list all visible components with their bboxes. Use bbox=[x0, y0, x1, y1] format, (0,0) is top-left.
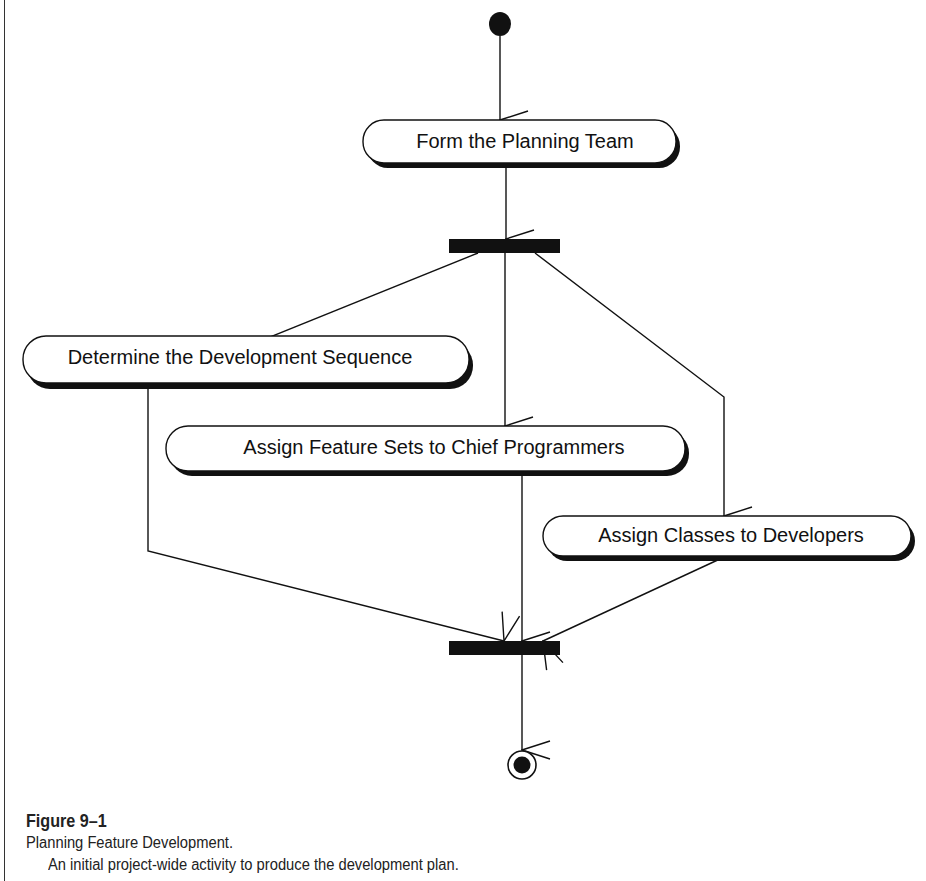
activity-label: Determine the Development Sequence bbox=[68, 346, 413, 368]
activity-determine-development-sequence: Determine the Development Sequence bbox=[23, 336, 473, 389]
activity-assign-feature-sets: Assign Feature Sets to Chief Programmers bbox=[166, 426, 689, 476]
figure-description: An initial project-wide activity to prod… bbox=[48, 854, 459, 876]
activity-label: Form the Planning Team bbox=[416, 130, 634, 152]
join-bar bbox=[449, 641, 560, 655]
initial-node bbox=[489, 12, 511, 36]
figure-title: Planning Feature Development. bbox=[26, 832, 457, 854]
figure-caption: Figure 9–1 Planning Feature Development.… bbox=[26, 810, 494, 876]
figure-number: Figure 9–1 bbox=[26, 810, 424, 832]
activity-assign-classes: Assign Classes to Developers bbox=[543, 516, 915, 561]
activity-label: Assign Classes to Developers bbox=[598, 524, 864, 546]
activity-form-planning-team: Form the Planning Team bbox=[363, 120, 680, 168]
edge-classes-to-join bbox=[543, 558, 722, 641]
fork-bar bbox=[449, 239, 560, 253]
activity-label: Assign Feature Sets to Chief Programmers bbox=[243, 436, 624, 458]
edge-fork-to-classes bbox=[535, 253, 724, 516]
activity-diagram: Form the Planning Team Determine the Dev… bbox=[0, 0, 926, 800]
edge-fork-to-determine bbox=[250, 253, 478, 345]
final-node bbox=[508, 751, 536, 779]
